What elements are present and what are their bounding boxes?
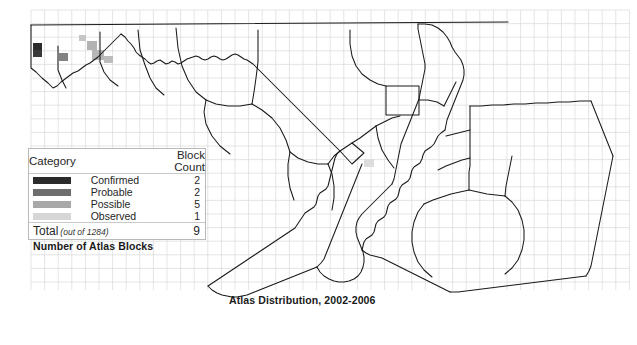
legend-swatch-cell	[29, 186, 88, 198]
legend-swatch-possible	[32, 200, 72, 209]
legend-count-possible: 5	[146, 198, 205, 210]
legend-row-observed: Observed 1	[29, 210, 205, 223]
legend-label-probable: Probable	[88, 186, 147, 198]
legend-swatch-probable	[32, 188, 72, 197]
legend-total-label: Total	[33, 224, 58, 238]
map-figure: Category Block Count Confirmed 2 Probabl	[0, 0, 637, 345]
legend-header-block-count: Block Count	[146, 149, 205, 174]
legend-panel: Category Block Count Confirmed 2 Probabl	[28, 148, 206, 240]
legend-total-row: Total(out of 1284) 9	[29, 223, 205, 240]
atlas-block	[87, 41, 97, 50]
blocks-caption: Number of Atlas Blocks	[33, 240, 153, 252]
legend-label-observed: Observed	[88, 210, 147, 223]
legend-total-count: 9	[146, 223, 205, 240]
atlas-block	[104, 56, 113, 63]
legend-swatch-observed	[32, 212, 72, 221]
legend-total-note: (out of 1284)	[58, 227, 108, 237]
legend-row-probable: Probable 2	[29, 186, 205, 198]
legend-label-confirmed: Confirmed	[88, 174, 147, 187]
legend-count-confirmed: 2	[146, 174, 205, 187]
legend-total-label-cell: Total(out of 1284)	[29, 223, 146, 240]
atlas-block	[92, 50, 104, 60]
atlas-block	[364, 159, 374, 167]
legend-swatch-cell	[29, 210, 88, 223]
legend-count-observed: 1	[146, 210, 205, 223]
legend-table: Category Block Count Confirmed 2 Probabl	[29, 149, 205, 239]
legend-swatch-cell	[29, 174, 88, 187]
legend-row-possible: Possible 5	[29, 198, 205, 210]
legend-count-probable: 2	[146, 186, 205, 198]
legend-label-possible: Possible	[88, 198, 147, 210]
atlas-block	[59, 53, 68, 61]
legend-header-category: Category	[29, 149, 146, 174]
atlas-block	[33, 50, 42, 57]
legend-swatch-cell	[29, 198, 88, 210]
atlas-block	[79, 35, 86, 41]
atlas-block	[33, 43, 42, 50]
legend-swatch-confirmed	[32, 176, 72, 185]
legend-header-row: Category Block Count	[29, 149, 205, 174]
map-title: Atlas Distribution, 2002-2006	[229, 294, 375, 306]
legend-row-confirmed: Confirmed 2	[29, 174, 205, 187]
